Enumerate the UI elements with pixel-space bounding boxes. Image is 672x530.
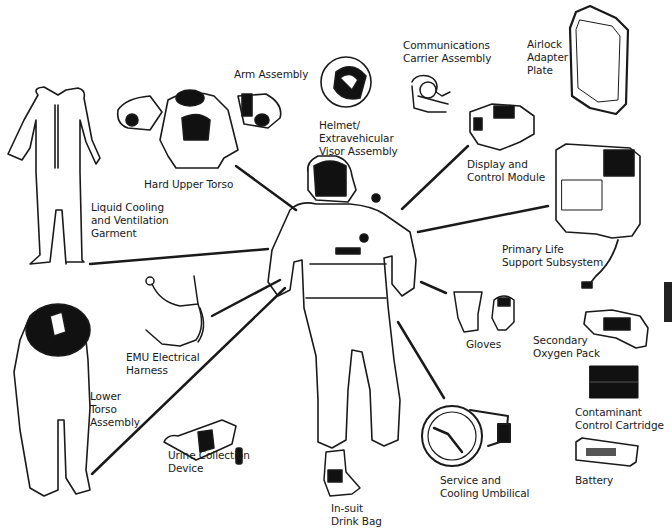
emu-electrical-harness-icon bbox=[146, 276, 204, 346]
airlock-adapter-plate-icon bbox=[570, 6, 628, 114]
label-in-suit-drink-bag: In-suit Drink Bag bbox=[331, 502, 382, 528]
communications-carrier-icon bbox=[412, 76, 450, 112]
liquid-cooling-garment-icon bbox=[8, 87, 100, 264]
display-control-module-icon bbox=[470, 104, 534, 150]
label-emu-electrical-harness: EMU Electrical Harness bbox=[126, 351, 200, 377]
label-service-cooling-umbilical: Service and Cooling Umbilical bbox=[440, 474, 529, 500]
label-hard-upper-torso: Hard Upper Torso bbox=[144, 178, 233, 191]
in-suit-drink-bag-icon bbox=[324, 450, 360, 496]
gloves-icon bbox=[454, 292, 514, 332]
label-contaminant-control-cartridge: Contaminant Control Cartridge bbox=[575, 406, 664, 432]
label-liquid-cooling-garment: Liquid Cooling and Ventilation Garment bbox=[91, 201, 169, 240]
label-helmet-evva: Helmet/ Extravehicular Visor Assembly bbox=[319, 119, 398, 158]
contaminant-control-cartridge-icon bbox=[590, 366, 638, 398]
label-secondary-oxygen-pack: Secondary Oxygen Pack bbox=[533, 334, 600, 360]
label-primary-life-support: Primary Life Support Subsystem bbox=[502, 243, 603, 269]
battery-icon bbox=[576, 438, 638, 466]
lower-torso-assembly-icon bbox=[14, 304, 90, 496]
label-arm-assembly: Arm Assembly bbox=[234, 68, 308, 81]
helmet-icon bbox=[321, 57, 371, 107]
label-gloves: Gloves bbox=[466, 338, 501, 351]
label-lower-torso-assembly: Lower Torso Assembly bbox=[90, 390, 140, 429]
label-urine-collection-device: Urine Collection Device bbox=[168, 449, 250, 475]
hard-upper-torso-icon bbox=[160, 90, 238, 168]
astronaut-icon bbox=[268, 156, 416, 448]
label-airlock-adapter-plate: Airlock Adapter Plate bbox=[527, 38, 568, 77]
label-battery: Battery bbox=[575, 474, 613, 487]
edge-tab-marker bbox=[664, 282, 672, 322]
service-cooling-umbilical-icon bbox=[422, 406, 510, 466]
emu-component-diagram: Arm Assembly Hard Upper Torso Liquid Coo… bbox=[0, 0, 672, 530]
label-communications-carrier: Communications Carrier Assembly bbox=[403, 39, 491, 65]
label-display-control-module: Display and Control Module bbox=[467, 158, 545, 184]
